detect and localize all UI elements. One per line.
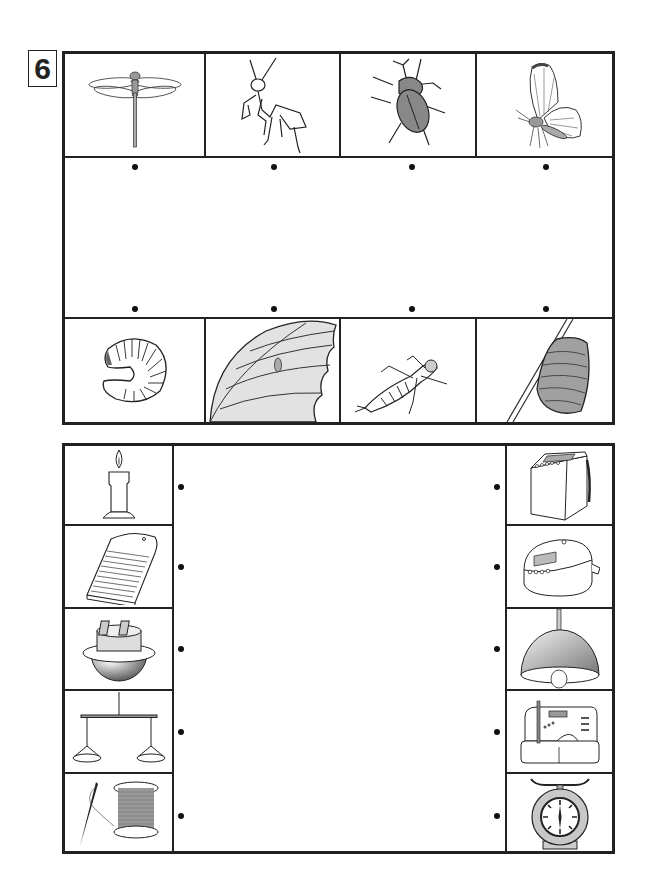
egg-leaf-cell	[206, 319, 339, 422]
beetle-icon	[363, 55, 453, 155]
match-dot[interactable]	[178, 813, 184, 819]
pot-cell	[65, 609, 172, 689]
dragonfly-cell	[65, 54, 204, 156]
needle-thread-icon	[74, 778, 164, 848]
grub-icon	[90, 331, 180, 411]
kitchen-scale-icon	[525, 775, 595, 851]
lamp-icon	[517, 609, 603, 689]
sewing-machine-cell	[507, 691, 613, 772]
grub-cell	[65, 319, 204, 422]
match-dot[interactable]	[132, 164, 138, 170]
lamp-cell	[507, 609, 613, 689]
dragonfly-icon	[80, 60, 190, 150]
match-dot[interactable]	[543, 306, 549, 312]
egg-on-leaf-icon	[206, 319, 339, 422]
nymph-cell	[341, 319, 475, 422]
beetle-cell	[341, 54, 475, 156]
candle-icon	[99, 448, 139, 522]
match-dot[interactable]	[178, 564, 184, 570]
butterfly-icon	[500, 58, 590, 153]
match-dot[interactable]	[178, 646, 184, 652]
washing-machine-icon	[525, 448, 595, 522]
match-dot[interactable]	[409, 306, 415, 312]
washboard-cell	[65, 526, 172, 607]
pot-icon	[79, 611, 159, 687]
match-dot[interactable]	[494, 484, 500, 490]
match-dot[interactable]	[271, 306, 277, 312]
match-dot[interactable]	[132, 306, 138, 312]
candle-cell	[65, 446, 172, 524]
washboard-icon	[77, 529, 161, 605]
nymph-icon	[351, 326, 466, 416]
mantis-cell	[206, 54, 339, 156]
balance-scale-cell	[65, 691, 172, 772]
match-dot[interactable]	[178, 484, 184, 490]
egg-case-icon	[477, 319, 613, 422]
match-dot[interactable]	[494, 813, 500, 819]
match-dot[interactable]	[271, 164, 277, 170]
needle-thread-cell	[65, 774, 172, 852]
match-dot[interactable]	[494, 646, 500, 652]
butterfly-cell	[477, 54, 613, 156]
mantis-icon	[228, 55, 318, 155]
top-row-divider	[63, 156, 613, 158]
match-dot[interactable]	[178, 729, 184, 735]
exercise-number: 6	[28, 50, 57, 87]
match-dot[interactable]	[494, 729, 500, 735]
egg-case-cell	[477, 319, 613, 422]
match-dot[interactable]	[543, 164, 549, 170]
sewing-machine-icon	[519, 697, 601, 767]
washing-machine-cell	[507, 446, 613, 524]
balance-scale-icon	[69, 692, 169, 772]
rice-cooker-cell	[507, 526, 613, 607]
rice-cooker-icon	[520, 534, 600, 600]
col-divider	[172, 445, 174, 852]
match-dot[interactable]	[409, 164, 415, 170]
kitchen-scale-cell	[507, 774, 613, 852]
match-dot[interactable]	[494, 564, 500, 570]
